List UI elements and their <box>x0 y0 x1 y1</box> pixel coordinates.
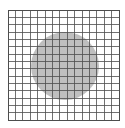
mesh-plot <box>0 0 125 128</box>
circular-region <box>31 32 99 100</box>
circular-region-group <box>31 32 99 100</box>
figure-root <box>0 0 125 128</box>
